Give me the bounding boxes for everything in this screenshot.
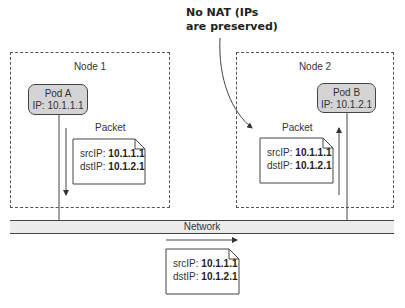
callout-line-2: are preserved)	[186, 20, 278, 34]
network-packet-src: srcIP: 10.1.1.1	[173, 257, 239, 270]
node-2-packet: srcIP: 10.1.1.1 dstIP: 10.1.2.1	[260, 138, 333, 183]
network-packet: srcIP: 10.1.1.1 dstIP: 10.1.2.1	[166, 249, 239, 294]
node-1-packet: srcIP: 10.1.1.1 dstIP: 10.1.2.1	[73, 139, 145, 184]
node-1-packet-dst: dstIP: 10.1.2.1	[80, 160, 145, 173]
node-2-packet-src: srcIP: 10.1.1.1	[267, 146, 333, 159]
node-1-packet-src: srcIP: 10.1.1.1	[80, 147, 145, 160]
no-nat-callout: No NAT (IPs are preserved)	[186, 6, 278, 34]
network-packet-dst: dstIP: 10.1.2.1	[173, 270, 239, 283]
callout-line-1: No NAT (IPs	[186, 6, 278, 20]
node-2-packet-dst: dstIP: 10.1.2.1	[267, 159, 333, 172]
